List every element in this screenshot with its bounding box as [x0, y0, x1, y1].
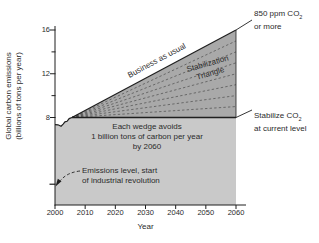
wedge-note-line1: Each wedge avoids [66, 122, 228, 132]
leader-line-850ppm [236, 20, 252, 30]
stabilize-line2: at current level [254, 124, 306, 134]
y-axis-title: Global carbon emissions (billions of ton… [4, 26, 24, 166]
co2-subscript: 2 [298, 116, 301, 122]
y-tick-label-16: 16 [30, 25, 50, 35]
x-tick-label-2050: 2050 [191, 208, 221, 218]
co2-850-annotation: 850 ppm CO2 or more [254, 9, 302, 32]
co2-850-line2: or more [254, 22, 302, 32]
co2-850-line1: 850 ppm CO2 [254, 9, 302, 22]
x-tick-label-2000: 2000 [40, 208, 70, 218]
x-tick-label-2010: 2010 [70, 208, 100, 218]
wedges-chart-figure: Global carbon emissions (billions of ton… [0, 0, 319, 243]
wedge-note-line3: by 2060 [66, 142, 228, 152]
y-axis-title-line2: (billions of tons per year) [14, 26, 24, 166]
x-axis-title: Year [126, 222, 166, 232]
stabilize-co2-annotation: Stabilize CO2 at current level [254, 111, 306, 134]
x-tick-label-2030: 2030 [131, 208, 161, 218]
y-tick-label-8: 8 [30, 113, 50, 123]
x-tick-label-2060: 2060 [221, 208, 251, 218]
wedge-note-line2: 1 billion tons of carbon per year [66, 132, 228, 142]
stabilize-line1: Stabilize CO2 [254, 111, 306, 124]
industrial-revolution-line1: Emissions level, start [82, 166, 160, 176]
co2-subscript: 2 [299, 14, 302, 20]
industrial-revolution-annotation: Emissions level, start of industrial rev… [82, 166, 160, 186]
y-tick-label-12: 12 [30, 69, 50, 79]
y-axis-title-line1: Global carbon emissions [4, 26, 14, 166]
wedge-note: Each wedge avoids 1 billion tons of carb… [66, 122, 228, 152]
leader-line-stabilize [236, 110, 252, 118]
x-tick-label-2020: 2020 [100, 208, 130, 218]
x-tick-label-2040: 2040 [161, 208, 191, 218]
industrial-revolution-line2: of industrial revolution [82, 176, 160, 186]
